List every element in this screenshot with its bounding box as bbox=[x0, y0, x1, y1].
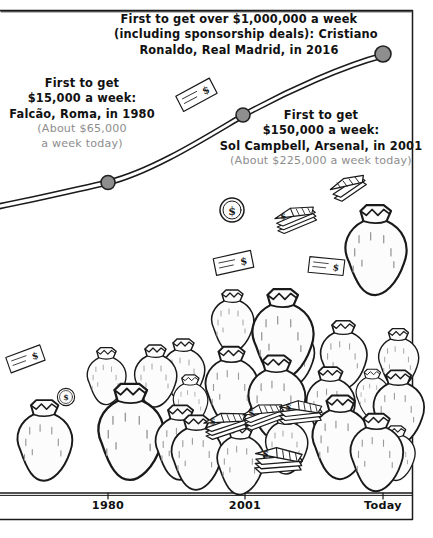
annotation-ronaldo: First to get over $1,000,000 a week (inc… bbox=[114, 12, 364, 58]
data-point-1980 bbox=[101, 176, 115, 190]
annotation-falcao-line1: First to get bbox=[4, 76, 160, 91]
annotation-falcao: First to get $15,000 a week: Falcão, Rom… bbox=[4, 76, 160, 152]
annotation-campbell: First to get $150,000 a week: Sol Campbe… bbox=[214, 108, 428, 169]
annotation-ronaldo-line2: (including sponsorship deals): Cristiano bbox=[114, 27, 364, 42]
annotation-falcao-line2: $15,000 a week: bbox=[4, 91, 160, 106]
infographic-page: .ink { fill: none; stroke: #1a1a1a; stro… bbox=[0, 0, 433, 538]
annotation-campbell-line4: (About $225,000 a week today) bbox=[214, 154, 428, 169]
annotation-campbell-line2: $150,000 a week: bbox=[214, 123, 428, 138]
axis-tick-label-today: Today bbox=[364, 499, 402, 512]
annotation-campbell-line1: First to get bbox=[214, 108, 428, 123]
annotation-falcao-line5: a week today) bbox=[4, 137, 160, 152]
axis-tick-label-1980: 1980 bbox=[92, 499, 124, 512]
annotation-campbell-line3: Sol Campbell, Arsenal, in 2001 bbox=[214, 139, 428, 154]
axis-tick-label-2001: 2001 bbox=[229, 499, 261, 512]
annotation-falcao-line3: Falcão, Roma, in 1980 bbox=[4, 107, 160, 122]
data-point-today bbox=[375, 46, 391, 62]
annotation-falcao-line4: (About $65,000 bbox=[4, 122, 160, 137]
x-axis bbox=[0, 493, 412, 499]
annotation-ronaldo-line1: First to get over $1,000,000 a week bbox=[114, 12, 364, 27]
annotation-ronaldo-line3: Ronaldo, Real Madrid, in 2016 bbox=[114, 43, 364, 58]
money-bag-pile bbox=[17, 289, 424, 494]
